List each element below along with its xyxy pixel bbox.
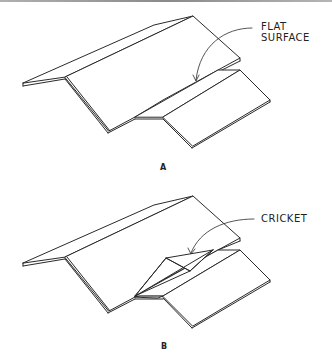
callout-cricket: CRICKET	[261, 213, 307, 224]
callout-flat-surface: FLAT SURFACE	[261, 21, 310, 43]
roof-diagram-a	[23, 16, 270, 148]
callout-line-1: CRICKET	[261, 213, 307, 224]
panel-label-b: B	[161, 342, 167, 351]
callout-line-2: SURFACE	[261, 32, 310, 43]
panel-label-a: A	[160, 163, 166, 172]
roof-diagram-b	[23, 196, 270, 328]
roof-diagrams	[0, 0, 332, 364]
callout-line-1: FLAT	[261, 21, 310, 32]
